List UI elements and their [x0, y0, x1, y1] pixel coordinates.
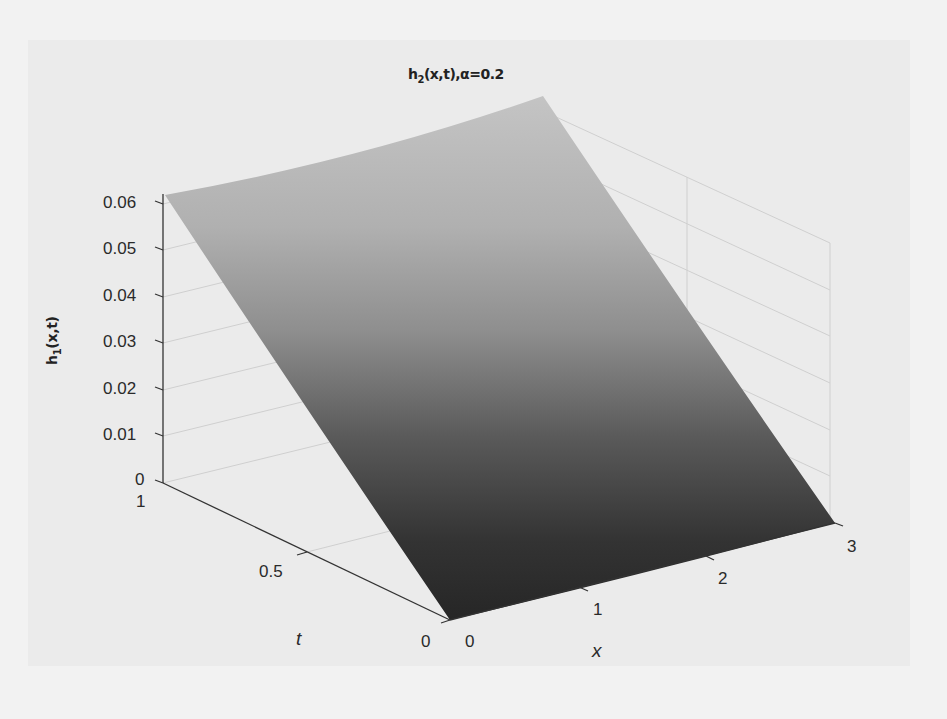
z-tick-label: 0.04: [103, 286, 136, 306]
x-tick-label: 2: [718, 569, 727, 589]
t-tick-label: 0.5: [259, 562, 283, 582]
surface-plot: [0, 0, 947, 719]
x-tick-label: 0: [465, 632, 474, 652]
figure: h2(x,t),α=0.2 h1(x,t) 0.06 0.05 0.04 0.0…: [0, 0, 947, 719]
z-tick-label: 0: [135, 470, 144, 490]
z-tick-label: 0.02: [103, 379, 136, 399]
z-tick-label: 0.01: [103, 425, 136, 445]
chart-title: h2(x,t),α=0.2: [408, 66, 504, 85]
t-axis-label: t: [296, 628, 301, 650]
x-axis-label: x: [592, 640, 602, 662]
z-axis-label: h1(x,t): [44, 316, 63, 365]
t-tick-label: 0: [421, 632, 430, 652]
z-tick-label: 0.03: [103, 332, 136, 352]
x-tick-label: 1: [593, 600, 602, 620]
x-tick-label: 3: [847, 537, 856, 557]
surface: [165, 96, 835, 620]
t-tick-label: 1: [136, 492, 145, 512]
z-tick-label: 0.06: [103, 193, 136, 213]
z-tick-label: 0.05: [103, 239, 136, 259]
